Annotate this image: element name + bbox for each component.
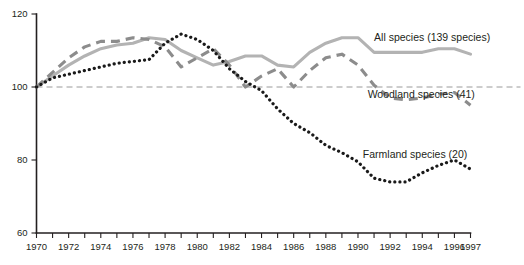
x-axis-tick-label: 1974	[90, 241, 111, 252]
bird-population-index-chart: 1201008060197019721974197619781980198219…	[0, 0, 524, 265]
legend-label-woodland-species: Woodland species (41)	[368, 88, 475, 100]
x-axis-tick-label: 1994	[412, 241, 433, 252]
x-axis-tick-label: 1980	[187, 241, 208, 252]
axes-group	[37, 14, 471, 233]
y-axis-tick-label: 120	[12, 8, 28, 19]
x-axis-tick-label: 1997	[460, 241, 481, 252]
x-axis-tick-label: 1992	[380, 241, 401, 252]
x-axis-tick-label: 1978	[155, 241, 176, 252]
x-axis-tick-label: 1982	[219, 241, 240, 252]
x-axis-tick-label: 1986	[283, 241, 304, 252]
tick-group	[32, 14, 471, 238]
x-axis-tick-label: 1972	[58, 241, 79, 252]
x-axis-tick-label: 1984	[251, 241, 272, 252]
x-axis-tick-label: 1976	[122, 241, 143, 252]
chart-canvas: 1201008060197019721974197619781980198219…	[0, 0, 524, 265]
y-axis-tick-label: 80	[17, 154, 28, 165]
y-axis-tick-label: 60	[17, 227, 28, 238]
x-axis-tick-label: 1990	[347, 241, 368, 252]
series-line-all-species	[37, 38, 471, 87]
legend-label-all-species: All species (139 species)	[374, 31, 490, 43]
x-axis-tick-label: 1970	[26, 241, 47, 252]
legend-label-farmland-species: Farmland species (20)	[363, 148, 467, 160]
y-axis-tick-label: 100	[12, 81, 28, 92]
tick-label-group: 1201008060197019721974197619781980198219…	[12, 8, 481, 252]
x-axis-tick-label: 1988	[315, 241, 336, 252]
